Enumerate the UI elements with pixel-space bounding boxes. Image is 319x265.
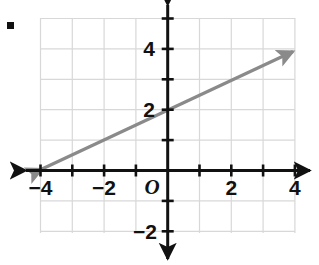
y-axis-label-2: 2	[143, 98, 155, 121]
coordinate-plane-figure: −4 −2 2 4 4 2 −2 O	[0, 0, 319, 265]
bullet-marker	[7, 22, 14, 29]
x-axis-label-4: 4	[289, 176, 301, 199]
origin-label: O	[144, 175, 159, 199]
y-axis-label--2: −2	[133, 220, 157, 243]
x-axis-label--2: −2	[92, 176, 116, 199]
graph-svg: −4 −2 2 4 4 2 −2 O	[0, 0, 319, 265]
x-axis-label-2: 2	[225, 176, 237, 199]
x-axis-label--4: −4	[29, 176, 53, 199]
y-axis-label-4: 4	[143, 37, 155, 60]
